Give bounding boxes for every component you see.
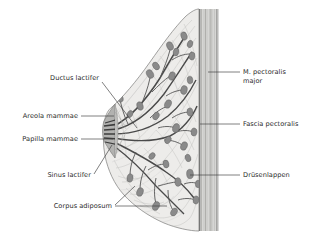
label-ductus-lactifer: Ductus lactifer (50, 74, 99, 82)
labels-right-group: M. pectoralis major Fascia pectoralis Dr… (243, 68, 299, 179)
label-corpus-adiposum: Corpus adiposum (54, 202, 112, 210)
label-areola-mammae: Areola mammae (23, 112, 78, 120)
anatomical-figure: Ductus lactifer Areola mammae Papilla ma… (0, 0, 318, 239)
label-druesenlappen: Drüsenlappen (243, 171, 290, 179)
label-m-pectoralis-major-line2: major (243, 77, 263, 85)
label-sinus-lactifer: Sinus lactifer (47, 171, 91, 179)
label-m-pectoralis-major-line1: M. pectoralis (243, 68, 286, 76)
label-papilla-mammae: Papilla mammae (22, 135, 78, 143)
labels-left-group: Ductus lactifer Areola mammae Papilla ma… (22, 74, 112, 210)
label-fascia-pectoralis: Fascia pectoralis (243, 120, 299, 128)
breast-sagittal-section-diagram: Ductus lactifer Areola mammae Papilla ma… (0, 0, 318, 239)
chest-wall-group (199, 9, 218, 231)
